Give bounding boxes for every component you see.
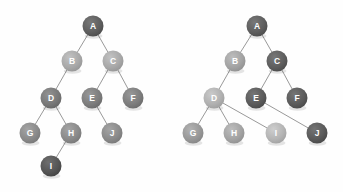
node-label-f: F [130,93,135,103]
tree-node-b[interactable]: B [62,51,83,74]
tree-node-h[interactable]: H [224,123,245,146]
node-label-j: J [315,128,320,138]
node-label-j: J [110,128,115,138]
tree-diagram-canvas: ABCDEFGHJIABCDEFGHIJ [0,0,343,192]
tree-node-d[interactable]: D [204,88,225,111]
node-label-c: C [110,56,116,66]
binary-tree: ABCDEFGHJI [20,16,144,179]
node-label-c: C [274,56,280,66]
node-label-a: A [90,21,96,31]
node-label-e: E [253,93,259,103]
node-label-b: B [69,56,75,66]
tree-diagram-figure: ABCDEFGHJIABCDEFGHIJ [0,0,343,192]
node-label-b: B [232,56,238,66]
node-label-a: A [254,21,260,31]
node-label-d: D [48,93,54,103]
tree-node-i[interactable]: I [266,123,287,146]
tree-node-c[interactable]: C [103,51,124,74]
node-label-i: I [275,128,277,138]
tree-node-a[interactable]: A [247,16,268,39]
general-tree: ABCDEFGHIJ [183,16,328,146]
tree-node-f[interactable]: F [123,88,144,111]
tree-node-d[interactable]: D [41,88,62,111]
node-label-h: H [68,128,74,138]
tree-edge-d-i [214,98,276,133]
tree-node-j[interactable]: J [307,123,328,146]
node-label-d: D [211,93,217,103]
edge-group [193,26,317,133]
tree-node-e[interactable]: E [82,88,103,111]
tree-node-c[interactable]: C [267,51,288,74]
tree-node-g[interactable]: G [183,123,204,146]
tree-edge-e-j [256,98,317,133]
tree-node-e[interactable]: E [246,88,267,111]
tree-node-h[interactable]: H [61,123,82,146]
node-label-h: H [231,128,237,138]
node-label-i: I [50,161,52,171]
node-label-e: E [89,93,95,103]
node-label-g: G [27,128,34,138]
tree-node-j[interactable]: J [102,123,123,146]
tree-node-f[interactable]: F [287,88,308,111]
node-label-g: G [190,128,197,138]
tree-node-b[interactable]: B [225,51,246,74]
node-label-f: F [294,93,299,103]
tree-node-a[interactable]: A [83,16,104,39]
tree-node-i[interactable]: I [41,156,62,179]
tree-node-g[interactable]: G [20,123,41,146]
